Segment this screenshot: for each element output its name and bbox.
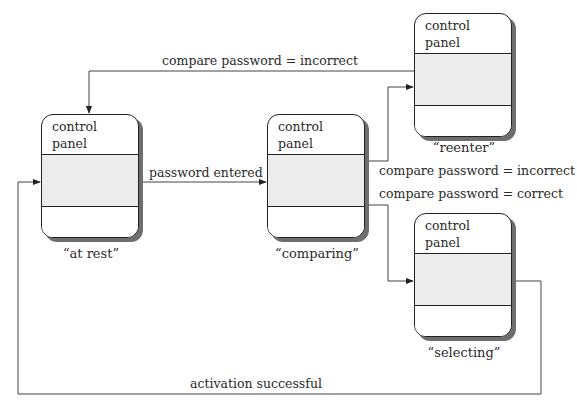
header-line-1: control	[52, 118, 138, 135]
state-box: control panel	[267, 114, 365, 238]
state-header: control panel	[268, 115, 364, 155]
edge-reenter-to-at-rest	[89, 71, 414, 113]
state-middle-section	[42, 155, 138, 207]
state-middle-section	[415, 254, 511, 306]
state-middle-section	[415, 54, 511, 106]
header-line-1: control	[425, 17, 511, 34]
label-reenter-to-at-rest: compare password = incorrect	[162, 53, 358, 68]
header-line-1: control	[278, 118, 364, 135]
label-activation-successful: activation successful	[190, 376, 322, 391]
state-comparing: control panel	[267, 114, 365, 238]
header-line-2: panel	[425, 234, 511, 251]
label-compare-incorrect: compare password = incorrect	[379, 163, 575, 178]
state-box: control panel	[414, 13, 512, 137]
label-password-entered: password entered	[149, 165, 263, 180]
caption-comparing: “comparing”	[267, 246, 367, 261]
state-middle-section	[268, 155, 364, 207]
state-header: control panel	[415, 14, 511, 54]
state-bottom-section	[415, 306, 511, 336]
header-line-1: control	[425, 217, 511, 234]
state-selecting: control panel	[414, 213, 512, 337]
state-header: control panel	[415, 214, 511, 254]
state-diagram: control panel “at rest” control panel “c…	[0, 0, 577, 409]
header-line-2: panel	[52, 135, 138, 152]
state-box: control panel	[41, 114, 139, 238]
caption-selecting: “selecting”	[414, 345, 514, 360]
header-line-2: panel	[278, 135, 364, 152]
label-compare-correct: compare password = correct	[379, 186, 563, 201]
state-header: control panel	[42, 115, 138, 155]
state-bottom-section	[415, 106, 511, 136]
header-line-2: panel	[425, 34, 511, 51]
edge-comparing-to-reenter	[366, 87, 413, 161]
caption-reenter: “reenter”	[414, 140, 514, 155]
state-bottom-section	[42, 207, 138, 237]
state-box: control panel	[414, 213, 512, 337]
caption-at-rest: “at rest”	[41, 246, 141, 261]
state-bottom-section	[268, 207, 364, 237]
state-reenter: control panel	[414, 13, 512, 137]
state-at-rest: control panel	[41, 114, 139, 238]
edge-comparing-to-selecting	[366, 205, 413, 281]
